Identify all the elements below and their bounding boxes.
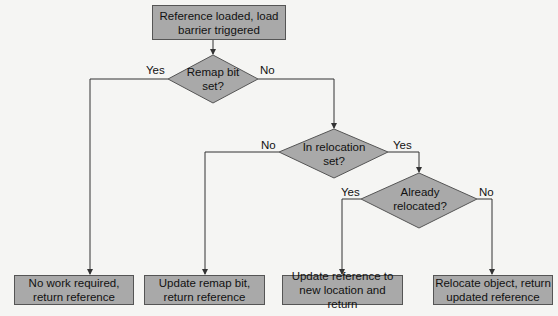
outcome-update-remap-bit: Update remap bit, return reference [144, 275, 265, 305]
decision-remap-bit: Remap bit set? [180, 64, 246, 94]
edge-label-relocated-yes: Yes [341, 186, 360, 198]
decision-in-relocation-set: In relocation set? [300, 132, 368, 176]
outcome-no-work: No work required, return reference [14, 275, 134, 305]
edge-label-relocset-no: No [261, 139, 276, 151]
outcome-relocate-object: Relocate object, return updated referenc… [433, 275, 553, 305]
outcome-update-reference: Update reference to new location and ret… [282, 275, 403, 305]
edge-label-relocated-no: No [479, 186, 494, 198]
connector-lines [0, 0, 558, 316]
start-node: Reference loaded, load barrier triggered [152, 5, 286, 40]
edge-label-remap-no: No [260, 64, 275, 76]
edge-label-remap-yes: Yes [146, 64, 165, 76]
flowchart: Reference loaded, load barrier triggered… [0, 0, 558, 316]
decision-already-relocated: Already relocated? [385, 184, 455, 214]
edge-label-relocset-yes: Yes [393, 139, 412, 151]
